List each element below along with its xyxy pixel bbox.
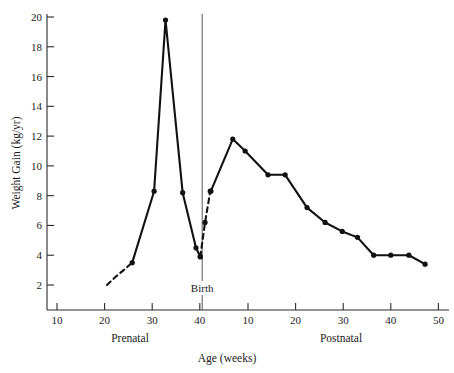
y-tick-label-6: 6 [37,219,43,231]
growth-velocity-figure: 2468101214161820 102030401020304050 Birt… [0,0,454,373]
prenatal-segment-label: Prenatal [111,332,149,344]
x-tick-label-postnatal-20: 20 [290,314,302,326]
y-axis-title: Weight Gain (kg/yr) [10,116,23,209]
x-tick-label-postnatal-40: 40 [385,314,397,326]
y-tick-label-20: 20 [31,11,43,23]
data-point-postnatal-growth-velocity-0 [208,189,213,194]
axes-group [47,14,449,310]
data-point-postnatal-growth-velocity-11 [406,253,411,258]
data-point-postnatal-growth-velocity-3 [265,172,270,177]
x-axis-title: Age (weeks) [198,352,257,365]
data-point-markers [130,17,428,266]
x-axis-ticks: 102030401020304050 [52,303,445,326]
y-tick-label-10: 10 [31,160,43,172]
data-point-birth-transition-interpolated-0 [198,254,203,259]
data-point-postnatal-growth-velocity-4 [283,172,288,177]
y-tick-label-12: 12 [31,130,42,142]
x-tick-label-prenatal-30: 30 [147,314,159,326]
y-tick-label-18: 18 [31,41,43,53]
y-tick-label-4: 4 [37,249,43,261]
x-tick-label-postnatal-30: 30 [338,314,350,326]
postnatal-segment-label: Postnatal [320,332,362,344]
data-point-prenatal-growth-velocity-3 [180,190,185,195]
data-point-postnatal-growth-velocity-5 [304,205,309,210]
series-path-postnatal-growth-velocity [211,139,425,264]
data-point-prenatal-growth-velocity-1 [152,189,157,194]
y-tick-label-2: 2 [37,279,43,291]
data-point-postnatal-growth-velocity-7 [340,229,345,234]
x-tick-label-prenatal-20: 20 [99,314,111,326]
x-tick-label-prenatal-40: 40 [194,314,206,326]
series-path-prenatal-growth-velocity [132,20,200,263]
y-axis-ticks: 2468101214161820 [31,11,54,291]
data-point-postnatal-growth-velocity-2 [243,148,248,153]
x-tick-label-prenatal-10: 10 [52,314,64,326]
x-tick-label-postnatal-10: 10 [243,314,255,326]
data-point-prenatal-growth-velocity-0 [130,260,135,265]
data-point-postnatal-growth-velocity-12 [422,262,427,267]
series-path-prenatal-growth-extrapolated-start [107,263,132,285]
data-point-postnatal-growth-velocity-8 [355,235,360,240]
data-point-postnatal-growth-velocity-6 [323,220,328,225]
birth-annotation: Birth [186,14,218,310]
birth-label: Birth [191,282,214,294]
data-point-postnatal-growth-velocity-10 [388,253,393,258]
data-point-postnatal-growth-velocity-1 [230,136,235,141]
data-point-postnatal-growth-velocity-9 [371,253,376,258]
data-point-prenatal-growth-velocity-2 [163,17,168,22]
y-tick-label-14: 14 [31,100,43,112]
data-point-birth-transition-interpolated-1 [202,220,207,225]
data-point-prenatal-growth-velocity-4 [193,245,198,250]
chart-canvas: 2468101214161820 102030401020304050 Birt… [0,0,454,373]
data-series-group [107,20,425,285]
y-tick-label-8: 8 [37,190,43,202]
x-tick-label-postnatal-50: 50 [433,314,445,326]
y-tick-label-16: 16 [31,71,43,83]
